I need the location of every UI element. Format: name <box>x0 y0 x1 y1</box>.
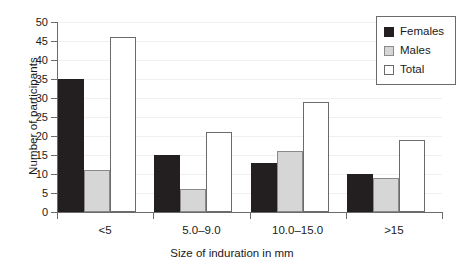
white-square-icon <box>384 65 394 75</box>
x-tick-label: >15 <box>384 224 404 236</box>
x-tick-label: 5.0–9.0 <box>182 224 220 236</box>
y-tick-label: 15 <box>20 150 48 161</box>
bar-group <box>153 22 249 212</box>
bar-group <box>250 22 346 212</box>
bar-males-3 <box>373 178 399 212</box>
y-tick-label: 25 <box>20 112 48 123</box>
x-tick-mark <box>153 213 154 219</box>
bar-chart: Number of participants 05101520253035404… <box>0 0 464 273</box>
bar-males-1 <box>180 189 206 212</box>
x-tick-mark <box>57 213 58 219</box>
y-tick-label: 30 <box>20 93 48 104</box>
x-tick-mark <box>250 213 251 219</box>
y-tick-label: 45 <box>20 36 48 47</box>
bar-females-3 <box>347 174 373 212</box>
legend: FemalesMalesTotal <box>376 16 456 85</box>
gray-square-icon <box>384 46 394 56</box>
legend-item: Females <box>384 23 448 40</box>
bar-males-2 <box>277 151 303 212</box>
black-square-icon <box>384 27 394 37</box>
y-tick-label: 20 <box>20 131 48 142</box>
bar-males-0 <box>84 170 110 212</box>
bar-total-1 <box>206 132 232 212</box>
x-axis-title: Size of induration in mm <box>0 247 464 259</box>
y-tick-label: 10 <box>20 169 48 180</box>
x-tick-mark <box>442 213 443 219</box>
bar-total-3 <box>399 140 425 212</box>
y-tick-label: 35 <box>20 74 48 85</box>
y-tick-label: 50 <box>20 17 48 28</box>
legend-item-label: Total <box>400 64 424 76</box>
y-axis-line <box>57 22 58 213</box>
y-tick-label: 5 <box>20 188 48 199</box>
legend-item: Total <box>384 61 448 78</box>
y-tick-label: 0 <box>20 207 48 218</box>
x-tick-label: 10.0–15.0 <box>272 224 323 236</box>
x-tick-label: <5 <box>99 224 112 236</box>
bar-total-0 <box>110 37 136 212</box>
bar-group <box>57 22 153 212</box>
bar-females-0 <box>58 79 84 212</box>
y-tick-label: 40 <box>20 55 48 66</box>
bar-total-2 <box>303 102 329 212</box>
legend-item-label: Males <box>400 45 431 57</box>
bar-females-1 <box>154 155 180 212</box>
bar-females-2 <box>251 163 277 212</box>
legend-item: Males <box>384 42 448 59</box>
x-tick-mark <box>346 213 347 219</box>
legend-item-label: Females <box>400 26 444 38</box>
